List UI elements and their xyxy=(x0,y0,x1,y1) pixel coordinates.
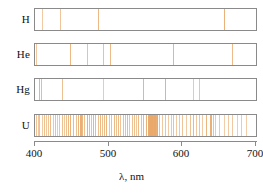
spectral-line xyxy=(129,115,130,136)
spectral-line xyxy=(103,44,104,65)
spectral-line xyxy=(232,115,233,136)
spectral-line xyxy=(193,79,194,100)
x-axis-title: λ, nm xyxy=(0,170,263,182)
spectral-line xyxy=(73,115,74,136)
spectral-line xyxy=(127,115,128,136)
spectral-line xyxy=(41,79,42,100)
spectral-line xyxy=(224,115,225,136)
spectrum-row-u: U xyxy=(0,110,263,140)
spectral-line xyxy=(116,115,117,136)
spectral-line xyxy=(123,115,124,136)
row-label-he: He xyxy=(0,39,30,69)
spectral-line xyxy=(157,115,158,136)
spectral-line xyxy=(168,115,169,136)
spectral-line xyxy=(237,115,238,136)
spectral-line xyxy=(93,115,94,136)
spectral-line xyxy=(111,115,112,136)
spectral-line xyxy=(182,115,183,136)
spectral-line xyxy=(50,115,51,136)
spectrum-row-he: He xyxy=(0,39,263,69)
spectral-line xyxy=(110,44,111,65)
spectral-line xyxy=(138,115,139,136)
spectral-line xyxy=(39,115,40,136)
spectral-line xyxy=(70,115,71,136)
x-axis-tick-label: 600 xyxy=(173,147,190,159)
spectral-line xyxy=(199,79,200,100)
spectral-line xyxy=(179,115,180,136)
x-axis-tick xyxy=(255,141,256,146)
spectral-line xyxy=(118,115,119,136)
spectral-line xyxy=(62,79,63,100)
spectrum-lines-h xyxy=(35,9,256,30)
spectral-line xyxy=(210,115,212,136)
spectral-line xyxy=(87,44,88,65)
spectrum-lines-he xyxy=(35,44,256,65)
spectral-line xyxy=(103,79,104,100)
x-axis-tick xyxy=(34,141,35,146)
spectrum-band-hg xyxy=(34,78,257,101)
spectral-line xyxy=(36,44,37,65)
spectral-line xyxy=(109,115,110,136)
spectral-line xyxy=(66,115,67,136)
spectral-line xyxy=(132,115,133,136)
spectral-line xyxy=(42,9,43,30)
spectrum-row-h: H xyxy=(0,4,263,34)
x-axis-tick xyxy=(181,141,182,146)
spectral-line xyxy=(193,115,194,136)
spectral-line xyxy=(241,115,242,136)
row-label-h: H xyxy=(0,4,30,34)
spectral-line xyxy=(162,115,163,136)
spectral-line xyxy=(46,115,47,136)
spectral-line xyxy=(98,115,99,136)
spectral-line xyxy=(171,115,172,136)
spectral-line xyxy=(143,79,144,100)
spectral-line xyxy=(39,79,40,100)
spectral-line xyxy=(202,115,203,136)
x-axis xyxy=(34,141,257,142)
spectral-line xyxy=(36,115,37,136)
spectral-line xyxy=(91,115,92,136)
spectral-line xyxy=(224,9,225,30)
spectral-line xyxy=(53,115,54,136)
spectral-line xyxy=(114,115,115,136)
spectral-line xyxy=(100,115,101,136)
spectral-line xyxy=(64,115,65,136)
spectrum-band-u xyxy=(34,114,257,137)
spectral-line xyxy=(84,115,85,136)
spectral-line xyxy=(165,79,166,100)
spectrum-band-he xyxy=(34,43,257,66)
x-axis-tick-label: 400 xyxy=(26,147,43,159)
spectrum-lines-u xyxy=(35,115,256,136)
spectral-line xyxy=(246,115,247,136)
spectral-line xyxy=(57,115,58,136)
spectral-line xyxy=(89,115,90,136)
spectrum-row-hg: Hg xyxy=(0,74,263,104)
spectral-line xyxy=(165,115,166,136)
spectral-line xyxy=(102,115,103,136)
spectral-line xyxy=(196,115,197,136)
spectral-line xyxy=(87,115,88,136)
spectral-line xyxy=(104,115,105,136)
spectral-line xyxy=(70,44,71,65)
spectral-line xyxy=(120,115,121,136)
spectral-line xyxy=(60,9,61,30)
spectral-line xyxy=(176,115,177,136)
x-axis-tick xyxy=(108,141,109,146)
spectral-line xyxy=(199,115,200,136)
spectral-line xyxy=(44,115,45,136)
spectral-line xyxy=(228,115,229,136)
spectral-line xyxy=(95,115,96,136)
spectral-line xyxy=(186,115,187,136)
spectrum-lines-hg xyxy=(35,79,256,100)
spectral-line xyxy=(143,115,144,136)
spectral-line xyxy=(98,9,99,30)
spectrum-band-h xyxy=(34,8,257,31)
spectral-line xyxy=(42,115,43,136)
row-label-hg: Hg xyxy=(0,74,30,104)
row-label-u: U xyxy=(0,110,30,140)
spectral-line xyxy=(173,115,174,136)
x-axis-tick-label: 700 xyxy=(247,147,263,159)
spectral-line xyxy=(173,44,174,65)
spectral-line xyxy=(76,115,77,136)
spectral-line xyxy=(141,115,142,136)
